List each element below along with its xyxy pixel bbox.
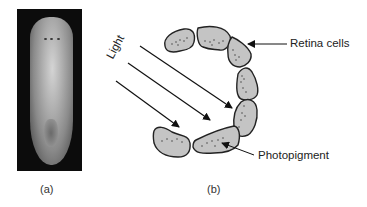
light-rays [116,46,232,127]
photopigment-label: Photopigment [258,149,329,161]
eyecup-diagram [0,0,367,207]
caption-b: (b) [207,183,220,195]
retina-cells-label: Retina cells [290,37,349,49]
